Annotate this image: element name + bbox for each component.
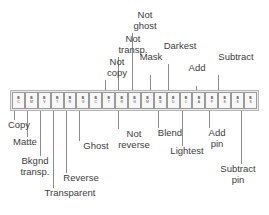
button-glyph-bottom: C (95, 101, 97, 105)
button-glyph-bottom: C (17, 101, 19, 105)
button-glyph-bottom: S (224, 101, 226, 105)
callout-label-darkest: Darkest (158, 40, 202, 51)
toolbar-button-copy[interactable]: BC (12, 92, 25, 109)
leader-line-add-pin (209, 111, 210, 128)
toolbar-button-not-copy[interactable]: BC (89, 92, 102, 109)
button-glyph-bottom: S (249, 101, 251, 105)
toolbar-button-subtract[interactable]: BS (218, 92, 231, 109)
leader-line-not-reverse (118, 111, 119, 129)
callout-label-subtract-pin: Subtract pin (213, 163, 263, 185)
toolbar-button-reverse[interactable]: BR (64, 92, 77, 109)
callout-label-not-copy: Not copy (100, 56, 134, 78)
leader-line-ghost (79, 111, 80, 141)
button-glyph-bottom: M (146, 101, 149, 105)
button-glyph-bottom: D (172, 101, 174, 105)
toolbar-button-bkgnd-transp[interactable]: BV (38, 92, 51, 109)
callout-label-matte: Matte (8, 136, 42, 147)
button-glyph-bottom: G (82, 101, 85, 105)
toolbar-button-not-reverse[interactable]: BR (115, 92, 128, 109)
callout-label-blend: Blend (152, 127, 188, 138)
transfer-mode-toolbar[interactable]: BC BM BV BT BR BG BC BT BR BG BM BB BD B… (10, 90, 259, 111)
callout-label-reverse: Reverse (58, 172, 104, 183)
toolbar-button-add[interactable]: BA (192, 92, 205, 109)
leader-line-mask (150, 75, 151, 90)
toolbar-button-add-pin[interactable]: BP (205, 92, 218, 109)
leader-line-subtract (218, 75, 219, 90)
leader-line-darkest (168, 64, 169, 90)
callout-label-add-pin: Add pin (203, 127, 231, 149)
button-glyph-bottom: L (185, 101, 187, 105)
callout-label-ghost: Ghost (78, 140, 114, 151)
button-glyph-bottom: R (69, 101, 71, 105)
toolbar-button-transparent[interactable]: BT (51, 92, 64, 109)
toolbar-button-extra[interactable]: BS (244, 92, 257, 109)
transfer-mode-diagram: BC BM BV BT BR BG BC BT BR BG BM BB BD B… (0, 0, 269, 215)
button-glyph-bottom: T (56, 101, 58, 105)
toolbar-button-ghost[interactable]: BG (76, 92, 89, 109)
callout-label-not-ghost: Not ghost (127, 9, 163, 31)
button-glyph-bottom: P (211, 101, 213, 105)
callout-label-not-reverse: Not reverse (113, 128, 155, 150)
leader-line-reverse (66, 111, 67, 173)
toolbar-button-not-transp[interactable]: BT (102, 92, 115, 109)
leader-line-not-copy (105, 80, 106, 90)
toolbar-button-subtract-pin[interactable]: BS (231, 92, 244, 109)
leader-line-subtract-pin (241, 111, 242, 164)
button-glyph-bottom: B (159, 101, 161, 105)
button-glyph-bottom: T (108, 101, 110, 105)
callout-label-mask: Mask (136, 51, 166, 62)
button-glyph-bottom: M (30, 101, 33, 105)
button-glyph-bottom: G (133, 101, 136, 105)
button-glyph-bottom: R (120, 101, 122, 105)
leader-line-bkgnd-transp (40, 111, 41, 156)
toolbar-button-not-ghost[interactable]: BG (128, 92, 141, 109)
callout-label-add: Add (184, 62, 210, 73)
button-glyph-bottom: V (43, 101, 45, 105)
toolbar-button-mask[interactable]: BM (141, 92, 154, 109)
leader-line-blend (158, 111, 159, 128)
button-glyph-bottom: A (198, 101, 200, 105)
button-glyph-bottom: S (237, 101, 239, 105)
callout-label-copy: Copy (3, 119, 35, 130)
toolbar-button-darkest[interactable]: BD (167, 92, 180, 109)
toolbar-button-matte[interactable]: BM (25, 92, 38, 109)
callout-label-subtract: Subtract (211, 51, 261, 62)
toolbar-button-blend[interactable]: BB (154, 92, 167, 109)
callout-label-bkgnd-transp: Bkgnd transp. (14, 155, 56, 177)
toolbar-button-lightest[interactable]: BL (180, 92, 193, 109)
callout-label-transparent: Transparent (37, 187, 103, 198)
